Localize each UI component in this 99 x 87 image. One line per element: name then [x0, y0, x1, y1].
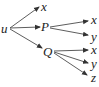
node-P: P	[41, 20, 49, 33]
edge-Q-x	[54, 50, 88, 51]
edge-Q-y	[54, 52, 88, 63]
node-x-top: x	[41, 0, 47, 13]
edge-u-x	[10, 7, 39, 28]
edge-P-y	[50, 28, 88, 35]
node-Q-x: x	[91, 43, 97, 56]
node-Q-z: z	[91, 71, 96, 84]
edge-P-x	[50, 21, 88, 27]
node-u: u	[1, 22, 8, 35]
tree-diagram: u x P Q x y x y z	[0, 0, 99, 87]
node-Q-y: y	[91, 57, 97, 70]
node-Q: Q	[43, 45, 52, 58]
node-P-x: x	[91, 13, 97, 26]
edge-u-P	[10, 27, 40, 28]
edge-Q-z	[54, 53, 87, 75]
edge-u-Q	[10, 29, 42, 48]
